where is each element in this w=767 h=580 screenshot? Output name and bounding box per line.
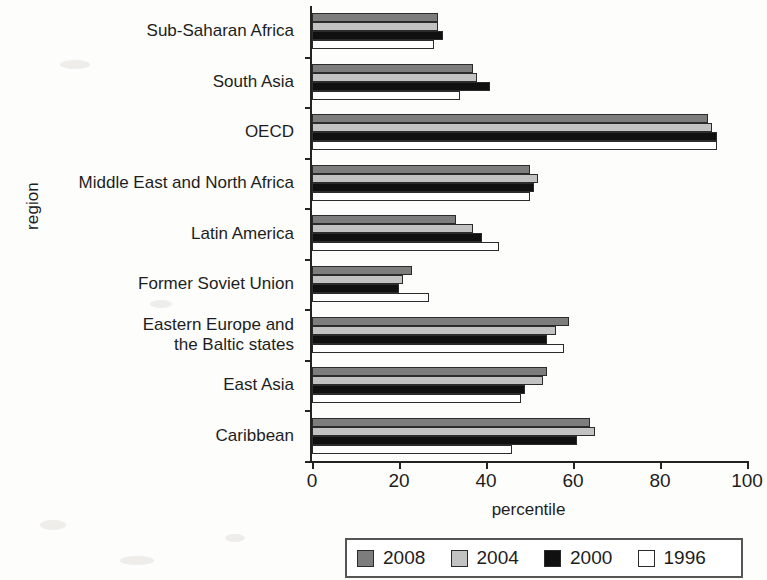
bar-row: [312, 40, 434, 49]
bar-2004: [312, 376, 543, 385]
bar-2008: [312, 13, 438, 22]
x-axis-tick-label: 40: [456, 470, 516, 492]
legend-item-1996: 1996: [638, 547, 732, 569]
bar-group: [312, 158, 747, 209]
y-axis-tick: [305, 158, 312, 160]
bar-row: [312, 242, 499, 251]
category-label-line: Eastern Europe and: [0, 315, 294, 335]
bar-group: [312, 6, 747, 57]
bar-group: [312, 410, 747, 461]
bar-row: [312, 73, 477, 82]
bar-2004: [312, 427, 595, 436]
bar-row: [312, 114, 708, 123]
category-label: Latin America: [0, 224, 294, 244]
bar-row: [312, 418, 590, 427]
bar-2008: [312, 165, 530, 174]
category-label: Eastern Europe andthe Baltic states: [0, 315, 294, 355]
bar-2008: [312, 64, 473, 73]
y-axis-tick: [305, 461, 312, 463]
legend-swatch-icon: [451, 550, 468, 567]
x-axis-tick-label: 100: [717, 470, 767, 492]
legend-item-2004: 2004: [451, 547, 545, 569]
category-label: Middle East and North Africa: [0, 173, 294, 193]
bar-row: [312, 183, 534, 192]
bar-2000: [312, 335, 547, 344]
bar-row: [312, 317, 569, 326]
bar-2004: [312, 326, 556, 335]
bar-2000: [312, 233, 482, 242]
category-label: Caribbean: [0, 426, 294, 446]
scan-speckle: [225, 534, 245, 542]
bar-2008: [312, 215, 456, 224]
chart-legend: 2008200420001996: [345, 538, 743, 578]
bar-row: [312, 64, 473, 73]
y-axis-tick: [305, 259, 312, 261]
category-label-line: Latin America: [0, 224, 294, 244]
category-label-line: Former Soviet Union: [0, 274, 294, 294]
bar-row: [312, 132, 717, 141]
legend-item-2008: 2008: [357, 547, 451, 569]
bar-row: [312, 224, 473, 233]
bar-row: [312, 165, 530, 174]
bar-row: [312, 385, 525, 394]
y-axis-tick: [305, 107, 312, 109]
bar-1996: [312, 293, 429, 302]
category-label-list: Sub-Saharan AfricaSouth AsiaOECDMiddle E…: [0, 6, 302, 461]
bar-row: [312, 427, 595, 436]
x-axis-tick-label: 80: [630, 470, 690, 492]
bar-2000: [312, 132, 717, 141]
bar-2008: [312, 418, 590, 427]
bar-1996: [312, 141, 717, 150]
bar-group: [312, 309, 747, 360]
bar-group: [312, 360, 747, 411]
x-axis-title: percentile: [310, 500, 747, 520]
legend-label: 2008: [383, 547, 425, 569]
scan-speckle: [120, 556, 154, 565]
plot-area: 020406080100: [310, 6, 747, 461]
bar-row: [312, 141, 717, 150]
bar-group: [312, 259, 747, 310]
bar-row: [312, 233, 482, 242]
bar-groups: [312, 6, 747, 461]
category-label-line: the Baltic states: [0, 335, 294, 355]
bar-2000: [312, 385, 525, 394]
bar-1996: [312, 445, 512, 454]
x-axis-tick-label: 20: [369, 470, 429, 492]
x-axis-tick: [747, 461, 749, 469]
x-axis-tick-label: 60: [543, 470, 603, 492]
bar-row: [312, 445, 512, 454]
bar-row: [312, 293, 429, 302]
legend-label: 2004: [477, 547, 519, 569]
bar-row: [312, 344, 564, 353]
bar-group: [312, 208, 747, 259]
y-axis-tick: [305, 309, 312, 311]
bar-2004: [312, 123, 712, 132]
category-label-line: Caribbean: [0, 426, 294, 446]
bar-row: [312, 13, 438, 22]
bar-row: [312, 275, 403, 284]
bar-row: [312, 436, 577, 445]
category-label-line: East Asia: [0, 375, 294, 395]
bar-row: [312, 266, 412, 275]
bar-2000: [312, 82, 490, 91]
legend-label: 2000: [570, 547, 612, 569]
bar-group: [312, 107, 747, 158]
bar-1996: [312, 394, 521, 403]
bar-row: [312, 326, 556, 335]
bar-row: [312, 335, 547, 344]
category-label: OECD: [0, 122, 294, 142]
category-label-line: South Asia: [0, 72, 294, 92]
bar-row: [312, 174, 538, 183]
bar-2008: [312, 367, 547, 376]
bar-2008: [312, 266, 412, 275]
bar-2004: [312, 224, 473, 233]
y-axis-tick: [305, 57, 312, 59]
bar-1996: [312, 192, 530, 201]
y-axis-tick: [305, 360, 312, 362]
bar-row: [312, 394, 521, 403]
bar-2004: [312, 275, 403, 284]
category-label: Sub-Saharan Africa: [0, 21, 294, 41]
bar-1996: [312, 40, 434, 49]
bar-2004: [312, 73, 477, 82]
bar-row: [312, 31, 443, 40]
